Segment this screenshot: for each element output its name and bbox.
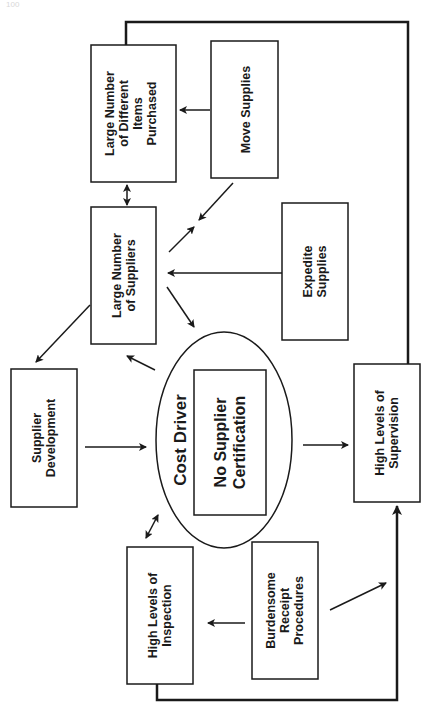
node-expedite-supplies: Expedite Supplies — [282, 203, 348, 340]
node-high-levels-inspection: High Levels of Inspection — [127, 547, 193, 684]
node-supervision-line-1: High Levels of — [373, 389, 387, 475]
node-high-levels-supervision: High Levels of Supervision — [354, 364, 420, 502]
cost-driver-diagram: Large Number of Different Items Purchase… — [0, 0, 425, 708]
node-supervision-line-2: Supervision — [387, 397, 401, 469]
node-supplier-dev-line-1: Supplier — [30, 413, 44, 463]
cost-driver-line-1: No Supplier — [212, 398, 229, 488]
node-cost-driver: Cost Driver No Supplier Certification — [156, 332, 292, 548]
edge-center-to-suppliers — [127, 356, 155, 370]
node-large-suppliers-line-1: Large Number — [110, 233, 124, 318]
node-expedite-line-1: Expedite — [301, 245, 315, 297]
node-burdensome-receipt: Burdensome Receipt Procedures — [252, 542, 318, 679]
cost-driver-label: Cost Driver — [171, 394, 190, 486]
node-inspection-line-2: Inspection — [160, 584, 174, 647]
node-receipt-line-2: Receipt — [278, 587, 292, 633]
edge-suppliers-to-center — [167, 287, 194, 327]
node-large-suppliers-line-2: of Suppliers — [124, 239, 138, 311]
node-move-supplies: Move Supplies — [211, 41, 278, 178]
node-expedite-line-2: Supplies — [315, 245, 329, 297]
node-items-purchased-line-3: Items — [131, 97, 145, 130]
edge-suppliers-to-move — [169, 227, 194, 252]
node-move-supplies-line-1: Move Supplies — [239, 66, 253, 154]
node-items-purchased-line-1: Large Number — [103, 71, 117, 156]
node-items-purchased-line-4: Purchased — [145, 82, 159, 146]
node-inspection-line-1: High Levels of — [146, 572, 160, 658]
edge-center-inspection-bidir — [146, 515, 158, 538]
node-supplier-dev-line-2: Development — [44, 398, 58, 477]
edge-receipt-to-supervision — [330, 583, 386, 610]
edge-suppliers-to-development — [36, 305, 90, 362]
node-items-purchased: Large Number of Different Items Purchase… — [91, 45, 176, 182]
cost-driver-line-2: Certification — [231, 396, 248, 489]
edge-move-to-suppliers — [199, 183, 233, 220]
node-receipt-line-1: Burdensome — [264, 572, 278, 648]
node-items-purchased-line-2: of Different — [117, 79, 131, 147]
node-supplier-development: Supplier Development — [11, 369, 77, 507]
node-receipt-line-3: Procedures — [292, 576, 306, 645]
node-large-suppliers: Large Number of Suppliers — [91, 207, 156, 344]
